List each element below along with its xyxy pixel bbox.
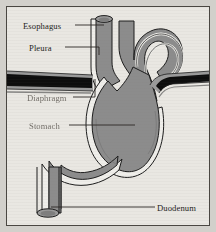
figure-plate: Esophagus Pleura Diaphragm Stomach Duode… [0,0,216,232]
duodenum-structure [37,167,61,217]
diagram-plate: Esophagus Pleura Diaphragm Stomach Duode… [6,6,210,226]
label-esophagus: Esophagus [23,21,61,31]
label-stomach: Stomach [29,121,60,131]
diaphragm-left [7,71,93,93]
label-diaphragm: Diaphragm [27,93,67,103]
label-duodenum: Duodenum [157,203,196,213]
label-pleura: Pleura [29,43,52,53]
anatomy-illustration [7,7,210,226]
